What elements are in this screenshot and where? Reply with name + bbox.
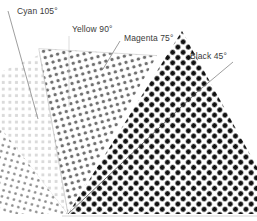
cyan-angle-label: Cyan 105° <box>17 6 58 16</box>
halftone-screen-angle-figure: Cyan 105° Yellow 90° Magenta 75° Black 4… <box>0 0 257 221</box>
yellow-angle-label: Yellow 90° <box>72 24 112 34</box>
black-angle-label: Black 45° <box>190 51 227 61</box>
magenta-angle-label: Magenta 75° <box>124 33 173 43</box>
